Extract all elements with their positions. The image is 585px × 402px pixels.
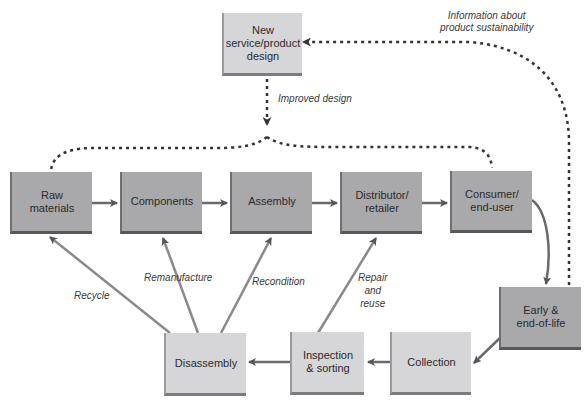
label-remanufacture: Remanufacture: [144, 272, 212, 284]
label-recycle: Recycle: [74, 290, 110, 302]
node-components: Components: [120, 172, 202, 234]
label-repair-reuse: Repairandreuse: [358, 271, 387, 310]
node-end-of-life: Early &end-of-life: [499, 287, 581, 350]
label-information: Information aboutproduct sustainability: [440, 10, 533, 34]
node-assembly: Assembly: [230, 172, 312, 234]
label-improved-design: Improved design: [278, 93, 352, 105]
node-inspection: Inspection& sorting: [290, 332, 364, 395]
node-distributor: Distributor/retailer: [340, 172, 422, 234]
dotted-feedback: [51, 42, 569, 285]
node-consumer: Consumer/end-user: [450, 171, 532, 233]
return-arrows: [50, 237, 376, 333]
node-new-design: Newservice/productdesign: [222, 13, 302, 76]
node-raw-materials: Rawmaterials: [10, 172, 92, 234]
node-disassembly: Disassembly: [164, 333, 246, 396]
node-collection: Collection: [390, 332, 471, 395]
label-recondition: Recondition: [252, 276, 305, 288]
